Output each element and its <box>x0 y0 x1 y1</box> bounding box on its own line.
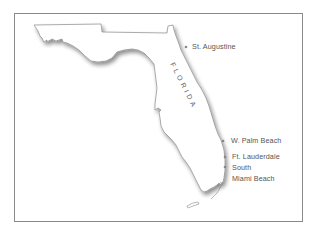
florida-keys-east <box>211 187 220 199</box>
city-dot-south-miami-beach <box>224 166 227 169</box>
city-label-south-miami-beach-line1: South <box>232 164 251 171</box>
city-dot-fort-lauderdale <box>224 156 227 159</box>
florida-keys-west <box>187 202 199 208</box>
city-label-south-miami-beach-line2: Miami Beach <box>232 175 275 182</box>
city-label-st-augustine: St. Augustine <box>192 43 236 50</box>
city-dot-st-augustine <box>185 46 188 49</box>
city-label-fort-lauderdale: Ft. Lauderdale <box>232 153 280 160</box>
florida-map: FLORIDA <box>0 0 320 232</box>
city-dot-west-palm-beach <box>222 140 225 143</box>
city-label-west-palm-beach: W. Palm Beach <box>231 137 281 144</box>
